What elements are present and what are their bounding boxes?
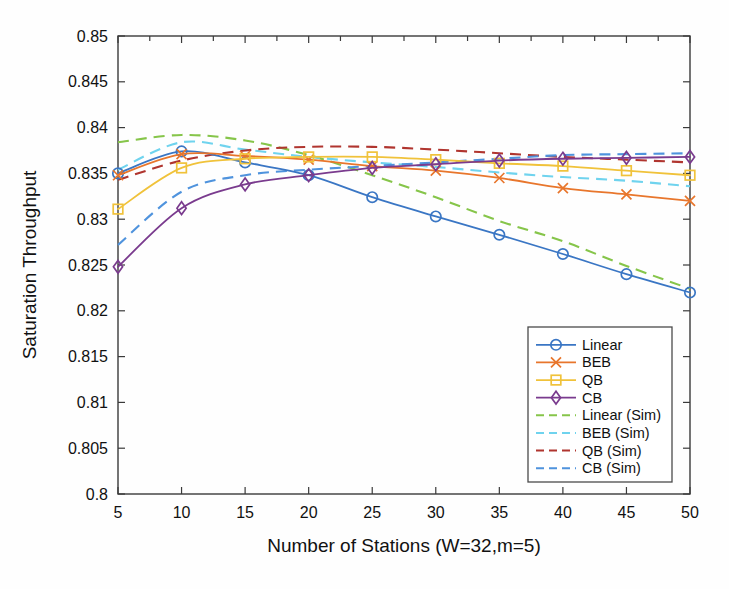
y-tick-label: 0.81 bbox=[77, 394, 108, 411]
x-tick-label: 15 bbox=[236, 504, 254, 521]
y-tick-label: 0.85 bbox=[77, 28, 108, 45]
legend-label: QB bbox=[582, 372, 603, 388]
y-axis-label: Saturation Throughput bbox=[19, 170, 40, 359]
series-path bbox=[118, 146, 690, 179]
legend-label: CB (Sim) bbox=[582, 460, 641, 476]
x-tick-label: 25 bbox=[363, 504, 381, 521]
x-tick-label: 50 bbox=[681, 504, 699, 521]
y-tick-label: 0.84 bbox=[77, 119, 108, 136]
x-tick-label: 10 bbox=[173, 504, 191, 521]
y-tick-label: 0.825 bbox=[68, 257, 108, 274]
legend-label: BEB bbox=[582, 354, 611, 370]
x-axis-label: Number of Stations (W=32,m=5) bbox=[267, 535, 541, 556]
y-tick-label: 0.835 bbox=[68, 165, 108, 182]
series-path bbox=[118, 157, 690, 267]
legend-label: QB (Sim) bbox=[582, 443, 642, 459]
series-qb bbox=[113, 152, 695, 214]
series-path bbox=[118, 153, 690, 245]
x-tick-label: 35 bbox=[490, 504, 508, 521]
series-path bbox=[118, 151, 690, 292]
legend-label: CB bbox=[582, 390, 602, 406]
x-tick-label: 45 bbox=[618, 504, 636, 521]
saturation-throughput-chart: 0.80.8050.810.8150.820.8250.830.8350.840… bbox=[0, 0, 729, 589]
legend: LinearBEBQBCBLinear (Sim)BEB (Sim)QB (Si… bbox=[528, 327, 672, 482]
x-tick-label: 20 bbox=[300, 504, 318, 521]
y-tick-label: 0.8 bbox=[86, 486, 108, 503]
x-tick-label: 5 bbox=[114, 504, 123, 521]
series-qb-sim bbox=[118, 146, 690, 179]
x-tick-label: 30 bbox=[427, 504, 445, 521]
legend-label: BEB (Sim) bbox=[582, 425, 650, 441]
y-tick-label: 0.83 bbox=[77, 211, 108, 228]
legend-label: Linear bbox=[582, 337, 622, 353]
y-tick-label: 0.82 bbox=[77, 302, 108, 319]
series-cb-sim bbox=[118, 153, 690, 245]
figure-container: 0.80.8050.810.8150.820.8250.830.8350.840… bbox=[0, 0, 729, 589]
series-path bbox=[118, 153, 690, 201]
x-tick-label: 40 bbox=[554, 504, 572, 521]
y-tick-label: 0.805 bbox=[68, 440, 108, 457]
y-tick-label: 0.845 bbox=[68, 73, 108, 90]
y-tick-label: 0.815 bbox=[68, 348, 108, 365]
legend-label: Linear (Sim) bbox=[582, 407, 661, 423]
